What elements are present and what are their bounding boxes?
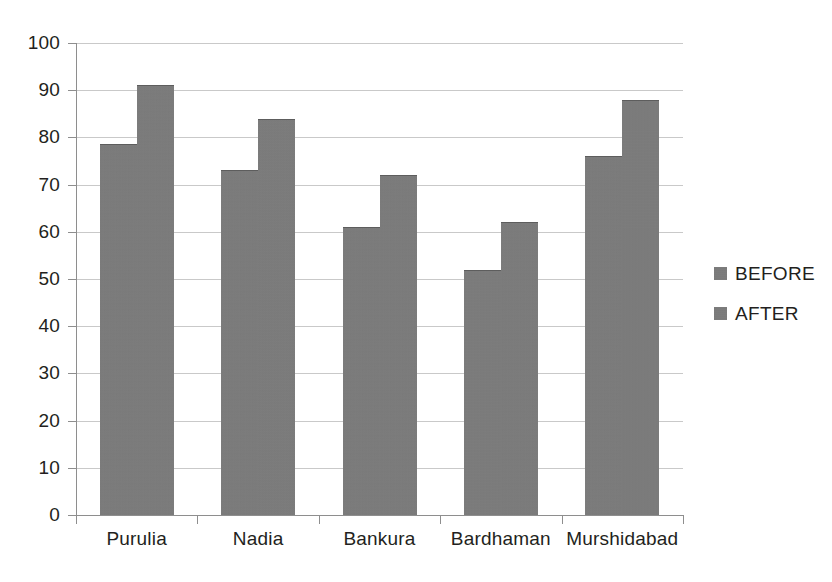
x-axis-label-bardhaman: Bardhaman (440, 528, 561, 550)
chart-legend: BEFOREAFTER (714, 258, 815, 338)
y-tick-label-30: 30 (0, 363, 60, 382)
y-tick-label-40: 40 (0, 316, 60, 335)
x-axis-label-murshidabad: Murshidabad (562, 528, 683, 550)
legend-label-before: BEFORE (735, 264, 815, 283)
legend-label-after: AFTER (735, 304, 799, 323)
bar-chart: 0102030405060708090100 PuruliaNadiaBanku… (0, 0, 832, 582)
bar-bardhaman-before (464, 270, 501, 515)
legend-item-after[interactable]: AFTER (714, 298, 815, 328)
x-axis-label-bankura: Bankura (319, 528, 440, 550)
y-tick-100 (68, 43, 76, 44)
x-axis-label-nadia: Nadia (197, 528, 318, 550)
legend-swatch-after (714, 307, 727, 320)
y-tick-10 (68, 468, 76, 469)
bar-nadia-after (258, 119, 295, 515)
bar-bankura-before (343, 227, 380, 515)
y-tick-label-0: 0 (0, 505, 60, 524)
y-tick-label-90: 90 (0, 80, 60, 99)
y-axis-line (76, 43, 77, 515)
y-tick-40 (68, 326, 76, 327)
y-tick-label-80: 80 (0, 127, 60, 146)
y-tick-0 (68, 515, 76, 516)
y-tick-label-100: 100 (0, 33, 60, 52)
x-tick-3 (562, 515, 563, 524)
bar-purulia-before (100, 144, 137, 515)
y-tick-label-10: 10 (0, 458, 60, 477)
gridline-100 (76, 43, 683, 44)
y-tick-label-60: 60 (0, 222, 60, 241)
y-tick-50 (68, 279, 76, 280)
bar-murshidabad-after (622, 100, 659, 515)
bar-murshidabad-before (585, 156, 622, 515)
plot-area (76, 43, 683, 515)
y-tick-90 (68, 90, 76, 91)
bar-bankura-after (380, 175, 417, 515)
y-tick-label-50: 50 (0, 269, 60, 288)
x-tick-0 (197, 515, 198, 524)
x-axis-label-purulia: Purulia (76, 528, 197, 550)
x-tick-4 (683, 515, 684, 524)
x-tick-origin (76, 515, 77, 524)
x-tick-2 (440, 515, 441, 524)
axis-baseline (76, 515, 683, 516)
y-tick-60 (68, 232, 76, 233)
bar-purulia-after (137, 85, 174, 515)
y-tick-label-20: 20 (0, 411, 60, 430)
bar-bardhaman-after (501, 222, 538, 515)
x-tick-1 (319, 515, 320, 524)
legend-item-before[interactable]: BEFORE (714, 258, 815, 288)
y-tick-30 (68, 373, 76, 374)
y-tick-80 (68, 137, 76, 138)
y-tick-label-70: 70 (0, 175, 60, 194)
bar-nadia-before (221, 170, 258, 515)
y-tick-70 (68, 185, 76, 186)
y-tick-20 (68, 421, 76, 422)
legend-swatch-before (714, 267, 727, 280)
